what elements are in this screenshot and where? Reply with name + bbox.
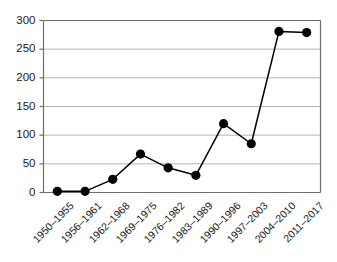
y-axis-tick-label: 50 <box>0 158 36 170</box>
data-point-marker[interactable] <box>53 187 62 196</box>
y-axis-tick-label: 200 <box>0 72 36 84</box>
y-axis-tick-label: 0 <box>0 187 36 199</box>
data-point-marker[interactable] <box>136 149 145 158</box>
data-point-marker[interactable] <box>108 175 117 184</box>
y-axis-tick-label: 300 <box>0 15 36 27</box>
data-point-marker[interactable] <box>219 119 228 128</box>
line-chart: 050100150200250300 1950–19551956–1961196… <box>0 0 337 262</box>
y-axis-tick-label: 150 <box>0 101 36 113</box>
y-axis-tick-label: 250 <box>0 43 36 55</box>
data-point-marker[interactable] <box>191 171 200 180</box>
y-axis-tick-label: 100 <box>0 129 36 141</box>
data-point-marker[interactable] <box>302 28 311 37</box>
data-point-marker[interactable] <box>80 187 89 196</box>
data-point-marker[interactable] <box>247 139 256 148</box>
data-point-marker[interactable] <box>164 163 173 172</box>
data-point-marker[interactable] <box>274 27 283 36</box>
